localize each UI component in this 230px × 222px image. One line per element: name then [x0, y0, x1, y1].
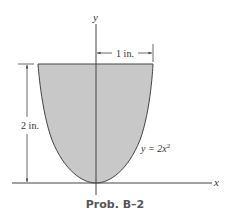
figure-caption: Prob. B–2 [86, 198, 144, 211]
width-dimension-label: 1 in. [116, 48, 134, 59]
curve-equation-label: y = 2x2 [140, 142, 171, 154]
curve-equation-exponent: 2 [167, 142, 171, 150]
y-axis-label: y [92, 11, 98, 23]
parabolic-area-diagram: y x 1 in. 2 in. y = 2x2 Prob. B–2 [0, 0, 230, 222]
curve-equation-base: y = 2x [140, 143, 167, 154]
x-axis-label: x [213, 176, 219, 188]
height-dimension-label: 2 in. [21, 120, 39, 131]
